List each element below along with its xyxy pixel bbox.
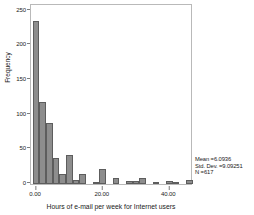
y-tick-label: 250 [0,6,30,14]
x-axis-title: Hours of e-mail per week for Internet us… [30,203,192,210]
histogram-bar [126,181,133,184]
histogram-bar [166,181,173,184]
histogram-bar [46,123,53,184]
stat-n: N =617 [195,169,243,176]
stat-std-dev: Std. Dev. =9.09251 [195,163,243,170]
y-axis: Frequency 050100150200250 [0,0,30,189]
histogram-bar [39,102,46,184]
x-tick-label: 40.00 [161,191,176,197]
histogram-bar [59,174,66,184]
histogram-bar [66,155,73,184]
histogram-bar [113,178,120,184]
y-tick-label: 100 [0,110,30,118]
histogram-bar [79,174,86,184]
histogram-bar [139,178,146,184]
histogram-bar [133,181,140,184]
histogram-bar [93,182,100,184]
histogram-bar [73,180,80,184]
histogram-bar [153,182,160,184]
plot-area [30,4,192,185]
histogram-bar [99,169,106,184]
histogram-figure: Frequency 050100150200250 Hours of e-mai… [0,0,254,215]
statistics-annotation: Mean =6.0936 Std. Dev. =9.09251 N =617 [195,156,243,176]
x-axis: Hours of e-mail per week for Internet us… [0,185,254,215]
stat-mean: Mean =6.0936 [195,156,243,163]
histogram-bar [53,158,60,184]
y-tick-label: 150 [0,75,30,83]
x-tick-label: 0.00 [29,191,40,197]
y-tick-label: 200 [0,40,30,48]
x-tick-label: 20.00 [94,191,109,197]
histogram-bar [33,21,40,184]
histogram-bar [186,180,193,184]
histogram-bar [173,182,180,184]
bars-layer [31,5,191,184]
y-tick-label: 50 [0,144,30,152]
